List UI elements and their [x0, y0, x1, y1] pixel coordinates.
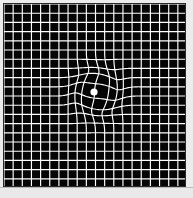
amsler-grid-figure: Amsler grid with central metamorphopsia …: [0, 0, 193, 198]
amsler-grid-chart: [3, 3, 186, 187]
fixation-dot-icon: [90, 88, 97, 95]
grid-svg: [4, 4, 185, 186]
grid-line: [4, 59, 185, 60]
bottom-strip: [0, 187, 193, 198]
grid-line: [4, 123, 185, 124]
